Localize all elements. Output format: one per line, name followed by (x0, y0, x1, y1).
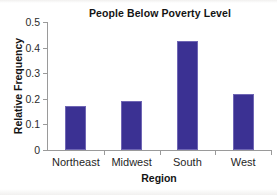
x-axis-title: Region (47, 172, 271, 184)
x-axis-category-label: Midwest (111, 156, 151, 168)
y-axis-tick (43, 124, 48, 125)
x-axis-category-label: West (231, 156, 256, 168)
y-axis-tick (43, 150, 48, 151)
x-axis-category-label: Northeast (52, 156, 100, 168)
y-axis-title: Relative Frequency (12, 18, 24, 154)
chart-title: People Below Poverty Level (60, 7, 260, 19)
plot-area: 00.10.20.30.40.5NortheastMidwestSouthWes… (47, 22, 271, 151)
bar (233, 94, 254, 150)
scan-edge-bottom (0, 189, 277, 195)
y-axis-tick-label: 0.1 (25, 118, 40, 130)
x-axis-category-label: South (173, 156, 202, 168)
bar (177, 41, 198, 150)
y-axis-tick-label: 0.4 (25, 42, 40, 54)
y-axis-tick-label: 0.5 (25, 16, 40, 28)
x-axis-tick (215, 150, 216, 155)
bar-chart: People Below Poverty Level Relative Freq… (0, 0, 277, 195)
bar (65, 106, 86, 150)
y-axis-tick (43, 48, 48, 49)
x-axis-tick (271, 150, 272, 155)
y-axis-tick-label: 0.3 (25, 67, 40, 79)
bar (121, 101, 142, 150)
y-axis-tick-label: 0.2 (25, 93, 40, 105)
y-axis-tick-label: 0 (34, 144, 40, 156)
y-axis-tick (43, 99, 48, 100)
scan-edge-top (0, 0, 277, 3)
x-axis-tick (160, 150, 161, 155)
x-axis-tick (104, 150, 105, 155)
y-axis-tick (43, 22, 48, 23)
y-axis-tick (43, 73, 48, 74)
